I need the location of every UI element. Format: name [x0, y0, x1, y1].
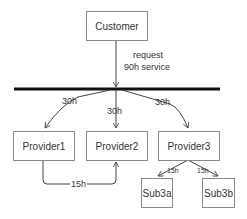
node-provider3: Provider3 [158, 131, 220, 161]
edge-to-provider1 [45, 90, 110, 128]
label-30h-p2: 30h [107, 106, 122, 117]
label-request: request [133, 50, 163, 61]
edge-to-provider3 [122, 90, 188, 128]
node-sub3b: Sub3b [202, 178, 235, 208]
node-sub3a: Sub3a [141, 178, 173, 208]
label-90h-service: 90h service [124, 62, 170, 73]
label-15h-sub3a: 15h [167, 167, 179, 175]
label-15h-p1-p2: 15h [70, 179, 87, 190]
node-provider2: Provider2 [86, 131, 148, 161]
label-30h-p3: 30h [155, 97, 170, 108]
label-15h-sub3b: 15h [197, 167, 209, 175]
node-provider1: Provider1 [13, 131, 75, 161]
node-customer: Customer [86, 11, 148, 41]
label-30h-p1: 30h [62, 96, 77, 107]
